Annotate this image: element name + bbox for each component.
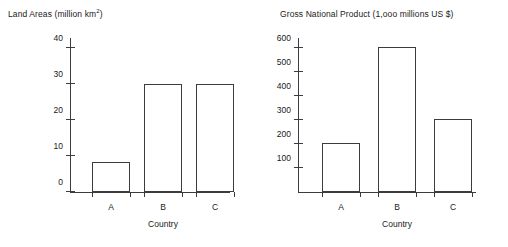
x-axis-title-gnp: Country (382, 219, 412, 229)
y-tick-gnp-300 (294, 119, 303, 120)
y-tick-land-40 (66, 47, 75, 48)
y-tick-label-gnp-500: 500 (277, 57, 291, 67)
x-tick-land-3 (144, 192, 145, 197)
bar-gnp-B (378, 47, 416, 192)
x-axis-line-land (70, 192, 230, 193)
y-tick-label-gnp-600: 600 (277, 33, 291, 43)
x-axis-title-land: Country (148, 219, 178, 229)
bar-land-B (144, 84, 182, 192)
y-tick-label-land-20: 20 (54, 105, 63, 115)
y-axis-line-gnp (298, 38, 299, 193)
bar-land-C (196, 84, 234, 192)
y-tick-label-land-0: 0 (58, 177, 63, 187)
plot-area-land-areas: 0 10 20 30 40 A B C Country (70, 38, 230, 193)
chart-land-areas: Land Areas (million km2) 0 10 20 30 40 (0, 0, 254, 247)
x-tick-gnp-5 (434, 192, 435, 197)
y-tick-land-0 (66, 191, 75, 192)
x-tick-land-6 (234, 192, 235, 197)
y-tick-gnp-200 (294, 143, 303, 144)
bar-gnp-A (322, 143, 360, 192)
x-tick-land-2 (130, 192, 131, 197)
y-tick-land-30 (66, 83, 75, 84)
plot-area-gnp: 100 200 300 400 500 600 A B C (298, 38, 476, 193)
figure-panel: Land Areas (million km2) 0 10 20 30 40 (0, 0, 508, 247)
chart-title-land-areas-text: Land Areas (million km (8, 9, 96, 19)
y-tick-gnp-600 (294, 47, 303, 48)
y-tick-label-land-40: 40 (54, 33, 63, 43)
y-tick-label-land-10: 10 (54, 141, 63, 151)
chart-gross-national-product: Gross National Product (1,ooo millions U… (254, 0, 508, 247)
x-tick-gnp-1 (322, 192, 323, 197)
x-axis-line-gnp (298, 192, 476, 193)
y-tick-gnp-500 (294, 71, 303, 72)
y-tick-gnp-100 (294, 167, 303, 168)
x-tick-label-land-A: A (108, 202, 114, 212)
y-tick-land-20 (66, 119, 75, 120)
x-tick-label-land-C: C (212, 202, 218, 212)
x-tick-land-5 (196, 192, 197, 197)
y-axis-line-land (70, 38, 71, 193)
y-tick-gnp-400 (294, 95, 303, 96)
bar-land-A (92, 162, 130, 192)
x-tick-gnp-4 (416, 192, 417, 197)
x-tick-label-gnp-B: B (394, 202, 400, 212)
x-tick-label-land-B: B (160, 202, 166, 212)
x-tick-land-4 (182, 192, 183, 197)
x-tick-label-gnp-A: A (338, 202, 344, 212)
y-tick-label-gnp-200: 200 (277, 129, 291, 139)
chart-title-land-areas: Land Areas (million km2) (8, 9, 103, 20)
x-tick-gnp-6 (472, 192, 473, 197)
y-tick-land-10 (66, 155, 75, 156)
y-tick-label-gnp-100: 100 (277, 153, 291, 163)
chart-title-gnp: Gross National Product (1,ooo millions U… (280, 9, 454, 20)
y-tick-label-land-30: 30 (54, 69, 63, 79)
chart-title-land-areas-tail: ) (100, 9, 103, 19)
x-tick-land-1 (92, 192, 93, 197)
bar-gnp-C (434, 119, 472, 192)
x-tick-label-gnp-C: C (450, 202, 456, 212)
x-tick-gnp-3 (378, 192, 379, 197)
x-tick-gnp-2 (360, 192, 361, 197)
y-tick-label-gnp-300: 300 (277, 105, 291, 115)
y-tick-label-gnp-400: 400 (277, 81, 291, 91)
